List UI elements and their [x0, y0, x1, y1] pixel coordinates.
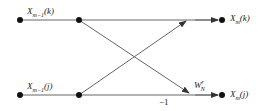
- input-node-top: [17, 17, 23, 23]
- output-node-top: [219, 17, 225, 23]
- output-bottom-label: Xm(j): [230, 90, 248, 101]
- input-bottom-label: Xm−1(j): [27, 82, 52, 93]
- input-top-label: Xm−1(k): [27, 7, 54, 18]
- butterfly-diagram: Xm−1(k) Xm−1(j) Xm(k) Xm(j) WrN −1: [0, 0, 267, 111]
- split-node-bottom: [76, 92, 82, 98]
- output-top-label: Xm(k): [230, 14, 250, 25]
- minus-one-label: −1: [159, 98, 169, 107]
- split-node-top: [76, 17, 82, 23]
- input-node-bottom: [17, 92, 23, 98]
- twiddle-factor-label: WrN: [194, 79, 205, 92]
- output-node-bottom: [219, 92, 225, 98]
- cross-diagonal-up: [79, 21, 186, 95]
